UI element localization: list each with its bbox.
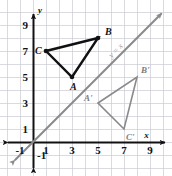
vertex-label-c-prime: C' — [126, 132, 135, 142]
vertex-label-b: B — [104, 26, 112, 37]
vertex-label-a-prime: A' — [83, 93, 93, 103]
coordinate-plane-figure: y = xABCA'B'C'-11357997531-1xy — [0, 0, 172, 176]
x-axis-name: x — [143, 130, 149, 140]
x-tick-label-7: 7 — [121, 144, 127, 156]
vertex-label-a: A — [69, 81, 77, 92]
vertex-dot-b — [96, 36, 101, 41]
x-tick-label-9: 9 — [147, 144, 153, 156]
vertex-label-b-prime: B' — [140, 65, 150, 75]
y-tick-label-9: 9 — [23, 19, 29, 31]
vertex-dot-c — [44, 49, 49, 54]
x-tick-label-3: 3 — [69, 144, 75, 156]
y-tick-label-3: 3 — [23, 97, 29, 109]
graph-canvas: y = xABCA'B'C'-11357997531-1xy — [0, 0, 172, 176]
y-tick-label-7: 7 — [23, 45, 29, 57]
x-tick-label-5: 5 — [95, 144, 101, 156]
x-tick-label--1: -1 — [15, 144, 24, 156]
y-tick-label-1: 1 — [23, 123, 29, 135]
vertex-dot-a — [70, 75, 75, 80]
y-tick-label-neg1: -1 — [37, 149, 46, 161]
y-tick-label-5: 5 — [23, 71, 29, 83]
vertex-label-c: C — [35, 45, 42, 56]
